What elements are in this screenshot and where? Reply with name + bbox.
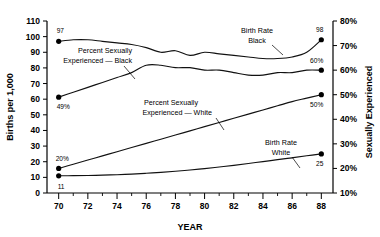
annotation-se-white-line1: Percent Sexually	[144, 98, 198, 107]
left-axis-ticks: 0102030405060708090100110	[26, 16, 47, 198]
left-tick-label: 30	[31, 141, 41, 151]
marker-start-1	[56, 95, 61, 100]
chart-container: 0102030405060708090100110 10%20%30%40%50…	[0, 0, 380, 237]
x-tick-label: 78	[171, 201, 181, 211]
point-label-end-2: 50%	[310, 101, 323, 108]
annotation-br-black-line2: Black	[248, 36, 266, 45]
x-tick-label: 86	[287, 201, 297, 211]
right-tick-label: 20%	[340, 163, 357, 173]
right-tick-label: 70%	[340, 41, 357, 51]
left-tick-label: 110	[26, 16, 40, 26]
marker-start-0	[56, 39, 61, 44]
point-label-start-2: 20%	[56, 155, 69, 162]
right-tick-label: 30%	[340, 139, 357, 149]
marker-end-1	[319, 68, 324, 73]
annotation-br-black-line1: Birth Rate	[241, 26, 273, 35]
left-axis-title: Births per 1,000	[5, 73, 15, 141]
left-tick-label: 10	[31, 172, 41, 182]
point-label-start-3: 11	[58, 183, 65, 190]
point-label-end-3: 25	[316, 160, 324, 167]
x-tick-label: 80	[200, 201, 210, 211]
marker-end-2	[319, 92, 324, 97]
x-tick-label: 82	[229, 201, 239, 211]
left-tick-label: 50	[31, 110, 41, 120]
left-tick-label: 70	[31, 79, 41, 89]
right-tick-label: 80%	[340, 16, 357, 26]
left-tick-label: 60	[31, 94, 41, 104]
x-tick-label: 70	[54, 201, 64, 211]
point-label-start-0: 97	[57, 27, 65, 34]
left-tick-label: 80	[31, 63, 41, 73]
right-axis-ticks: 10%20%30%40%50%60%70%80%	[333, 16, 357, 198]
series-line-1	[59, 65, 322, 98]
point-label-end-1: 60%	[310, 57, 323, 64]
annotation-se-black-line1: Percent Sexually	[78, 46, 132, 55]
right-tick-label: 40%	[340, 114, 357, 124]
x-tick-label: 72	[83, 201, 93, 211]
left-tick-label: 0	[35, 188, 40, 198]
right-tick-label: 60%	[340, 65, 357, 75]
x-axis-ticks: 70727476788082848688	[54, 193, 326, 211]
left-tick-label: 90	[31, 47, 41, 57]
x-axis-title: YEAR	[177, 222, 203, 232]
x-tick-label: 76	[141, 201, 151, 211]
annotation-br-black: Birth Rate Black	[241, 26, 283, 55]
annotation-br-white-line1: Birth Rate	[265, 138, 297, 147]
marker-end-0	[319, 37, 324, 42]
annotation-se-black-leader	[124, 66, 135, 79]
marker-end-3	[319, 151, 324, 156]
marker-start-3	[56, 173, 61, 178]
point-label-start-1: 49%	[57, 103, 70, 110]
annotation-se-white-leader	[216, 118, 224, 130]
left-tick-label: 40	[31, 125, 41, 135]
annotation-br-black-leader	[272, 45, 283, 55]
left-tick-label: 20	[31, 157, 41, 167]
x-tick-label: 88	[317, 201, 327, 211]
left-tick-label: 100	[26, 32, 40, 42]
annotation-br-white-leader	[292, 157, 300, 168]
right-tick-label: 10%	[340, 188, 357, 198]
annotation-br-white-line2: White	[272, 148, 290, 157]
annotation-br-white: Birth Rate White	[265, 138, 300, 168]
x-tick-label: 84	[258, 201, 268, 211]
annotation-se-black: Percent Sexually Experienced — Black	[63, 46, 135, 79]
right-tick-label: 50%	[340, 90, 357, 100]
annotation-se-black-line2: Experienced — Black	[63, 56, 132, 65]
line-chart: 0102030405060708090100110 10%20%30%40%50…	[0, 0, 380, 237]
annotation-se-white-line2: Experienced — White	[142, 108, 212, 117]
marker-start-2	[56, 166, 61, 171]
x-tick-label: 74	[112, 201, 122, 211]
right-axis-title: Sexually Experienced	[364, 66, 374, 159]
point-label-end-0: 98	[316, 26, 324, 33]
